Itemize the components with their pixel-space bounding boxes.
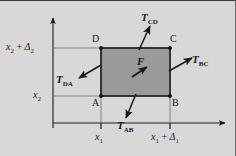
corner-dot-a: [99, 94, 103, 98]
traction-da-arrow: [79, 65, 101, 78]
corner-label-a: A: [92, 98, 99, 108]
corner-label-b: B: [172, 98, 179, 108]
axis-label-x2: x2: [33, 90, 41, 103]
traction-ab-arrow: [126, 94, 136, 118]
axis-label-x1-delta1: x1 + Δ1: [151, 132, 179, 145]
traction-bc-arrow: [169, 58, 192, 71]
corner-dot-c: [168, 46, 172, 50]
corner-label-c: C: [170, 34, 177, 44]
figure-container: x2 + Δ2 x2 x1 x1 + Δ1 A B C D TCD TBC TA…: [0, 0, 236, 156]
material-element: [101, 48, 170, 96]
axis-label-x2-delta2: x2 + Δ2: [6, 42, 34, 55]
traction-label-bc: TBC: [192, 54, 208, 68]
traction-cd-arrow: [139, 26, 150, 50]
corner-dot-d: [99, 46, 103, 50]
corner-label-d: D: [92, 34, 99, 44]
axis-label-x1: x1: [95, 132, 103, 145]
traction-label-da: TDA: [56, 74, 73, 88]
traction-label-cd: TCD: [141, 12, 158, 26]
traction-label-ab: TAB: [117, 120, 133, 134]
body-force-label: F: [137, 56, 144, 67]
